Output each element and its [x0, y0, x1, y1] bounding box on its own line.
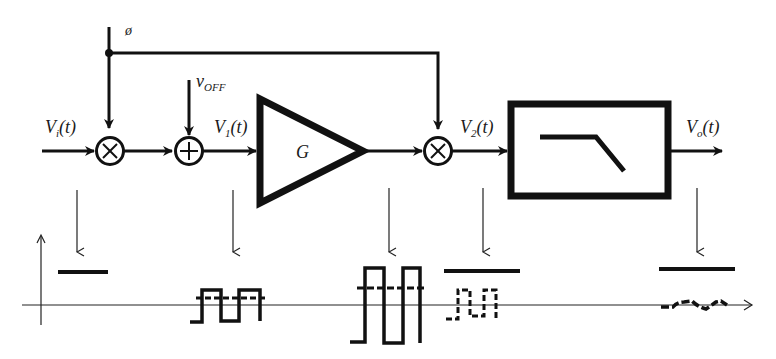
amplifier-triangle [260, 99, 363, 203]
v1-label: V1(t) [214, 117, 248, 139]
chopper-diagram: ø Vi(t) vOFF V1(t) G V2(t) Vo(t) [0, 0, 776, 359]
wave-v1 [190, 290, 266, 322]
vin-label: Vi(t) [45, 117, 76, 139]
phi-label: ø [124, 23, 133, 38]
voff-label: vOFF [196, 71, 226, 93]
gain-label: G [296, 142, 309, 162]
wave-v2 [444, 271, 520, 320]
adder [176, 138, 203, 165]
lowpass-filter-block [511, 104, 668, 196]
wave-vo [659, 269, 735, 309]
waveform-axes [22, 235, 752, 325]
v2-label: V2(t) [460, 117, 494, 139]
mixer-1 [97, 138, 124, 165]
vo-label: Vo(t) [686, 117, 720, 139]
mixer-2 [425, 138, 452, 165]
